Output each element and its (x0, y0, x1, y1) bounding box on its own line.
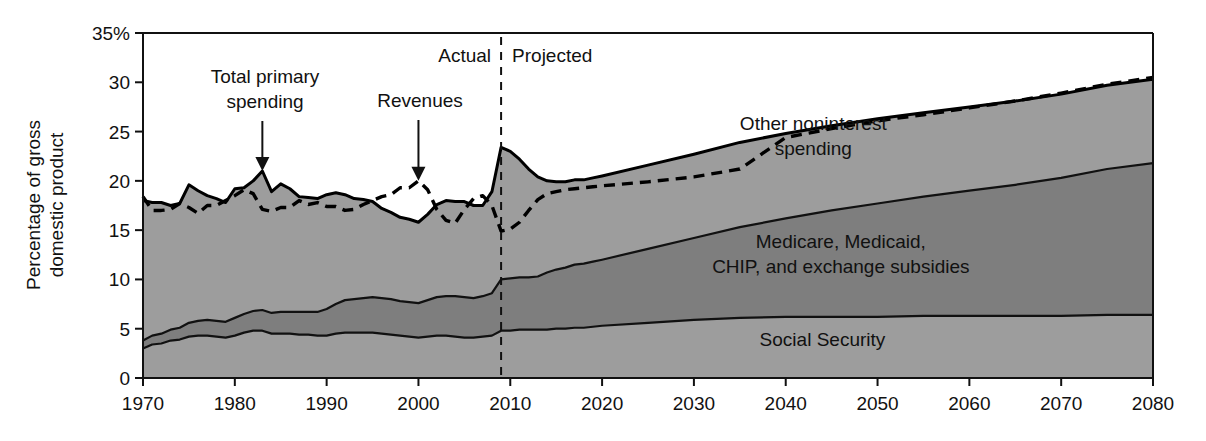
x-tick-label-2030: 2030 (673, 393, 715, 414)
annotation-label-revenues: Revenues (377, 90, 463, 111)
area-label-social-security: Social Security (760, 329, 886, 350)
x-tick-label-2060: 2060 (948, 393, 990, 414)
x-tick-label-1970: 1970 (122, 393, 164, 414)
x-tick-label-2010: 2010 (489, 393, 531, 414)
x-tick-label-2000: 2000 (397, 393, 439, 414)
divider-label-projected: Projected (512, 45, 592, 66)
area-label-other-noninterest-spending: Other noninterest (740, 113, 888, 134)
y-tick-label-15: 15 (109, 220, 130, 241)
x-tick-label-2040: 2040 (765, 393, 807, 414)
y-tick-label-35: 35% (92, 23, 130, 44)
cbo-long-term-budget-outlook-chart: Percentage of gross domestic product 051… (0, 0, 1206, 441)
y-tick-label-0: 0 (119, 368, 130, 389)
x-tick-label-1990: 1990 (305, 393, 347, 414)
y-axis-title-line2: domestic product (46, 132, 67, 277)
area-label-other-noninterest-spending: spending (775, 138, 852, 159)
x-tick-label-2070: 2070 (1040, 393, 1082, 414)
area-label-medicare-medicaid-chip-and-exchange-subsidies: CHIP, and exchange subsidies (712, 256, 969, 277)
y-tick-label-5: 5 (119, 319, 130, 340)
x-tick-label-1980: 1980 (214, 393, 256, 414)
x-tick-label-2020: 2020 (581, 393, 623, 414)
x-tick-label-2050: 2050 (856, 393, 898, 414)
chart-figure: Percentage of gross domestic product 051… (0, 0, 1206, 441)
annotation-label-total-primary-spending: spending (226, 91, 303, 112)
y-tick-label-25: 25 (109, 122, 130, 143)
y-tick-label-10: 10 (109, 269, 130, 290)
y-tick-label-30: 30 (109, 72, 130, 93)
area-label-medicare-medicaid-chip-and-exchange-subsidies: Medicare, Medicaid, (756, 231, 926, 252)
annotation-label-total-primary-spending: Total primary (211, 66, 320, 87)
divider-label-actual: Actual (438, 45, 491, 66)
x-tick-label-2080: 2080 (1132, 393, 1174, 414)
y-axis-title-line1: Percentage of gross (23, 120, 44, 290)
y-tick-label-20: 20 (109, 171, 130, 192)
